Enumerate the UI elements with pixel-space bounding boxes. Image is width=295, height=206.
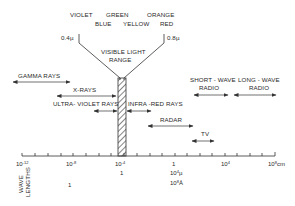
- color-violet: VIOLET: [70, 11, 93, 18]
- visible-band-bar: [118, 78, 126, 156]
- svg-text:WAVE: WAVE: [17, 175, 24, 193]
- tick-1e4: 104: [221, 160, 231, 168]
- visible-light-label: VISIBLE LIGHT: [101, 48, 146, 55]
- row2-under-1e-4: 1: [120, 170, 124, 176]
- visible-color-labels: VIOLET GREEN ORANGE BLUE YELLOW RED: [70, 11, 174, 27]
- em-spectrum-diagram: VIOLET GREEN ORANGE BLUE YELLOW RED 0.4µ…: [0, 0, 295, 206]
- color-blue: BLUE: [95, 20, 112, 27]
- wavelengths-side-label: WAVE LENGTHS: [17, 167, 31, 197]
- x-rays-label: X-RAYS: [73, 86, 96, 93]
- color-yellow: YELLOW: [123, 20, 149, 27]
- gamma-rays-label: GAMMA RAYS: [18, 72, 60, 79]
- ultraviolet-label: ULTRA- VIOLET RAYS: [53, 100, 118, 107]
- radar-label: RADAR: [160, 116, 183, 123]
- visible-range-label: RANGE: [109, 56, 132, 63]
- tick-1e-8: 10-8: [66, 160, 77, 168]
- tick-1e-12: 10-12: [16, 160, 29, 168]
- long-wave-label-1: LONG - WAVE: [238, 76, 280, 83]
- tv-label: TV: [201, 130, 210, 137]
- row2-under-1-micron: 104µ: [170, 169, 183, 177]
- tick-1e-4: 10-4: [115, 160, 126, 168]
- short-wave-label-1: SHORT - WAVE: [190, 76, 236, 83]
- svg-text:LENGTHS: LENGTHS: [24, 167, 31, 197]
- color-orange: ORANGE: [147, 11, 174, 18]
- short-wave-label-2: RADIO: [199, 84, 219, 91]
- infrared-label: INFRA -RED RAYS: [128, 100, 183, 107]
- visible-start-label: 0.4µ: [61, 34, 74, 41]
- wavelength-axis: [22, 152, 275, 156]
- long-wave-label-2: RADIO: [249, 84, 269, 91]
- row2-left-value: 1: [68, 182, 72, 188]
- tick-1e8-cm: 108cm: [268, 160, 285, 168]
- tick-1: 1: [172, 161, 176, 167]
- color-green: GREEN: [106, 11, 129, 18]
- visible-end-label: 0.8µ: [167, 34, 180, 41]
- axis-tick-labels: 10-12 10-8 10-4 1 104 108cm: [16, 160, 285, 168]
- row3-under-1-angstrom: 108Å: [170, 179, 183, 187]
- color-red: RED: [160, 20, 174, 27]
